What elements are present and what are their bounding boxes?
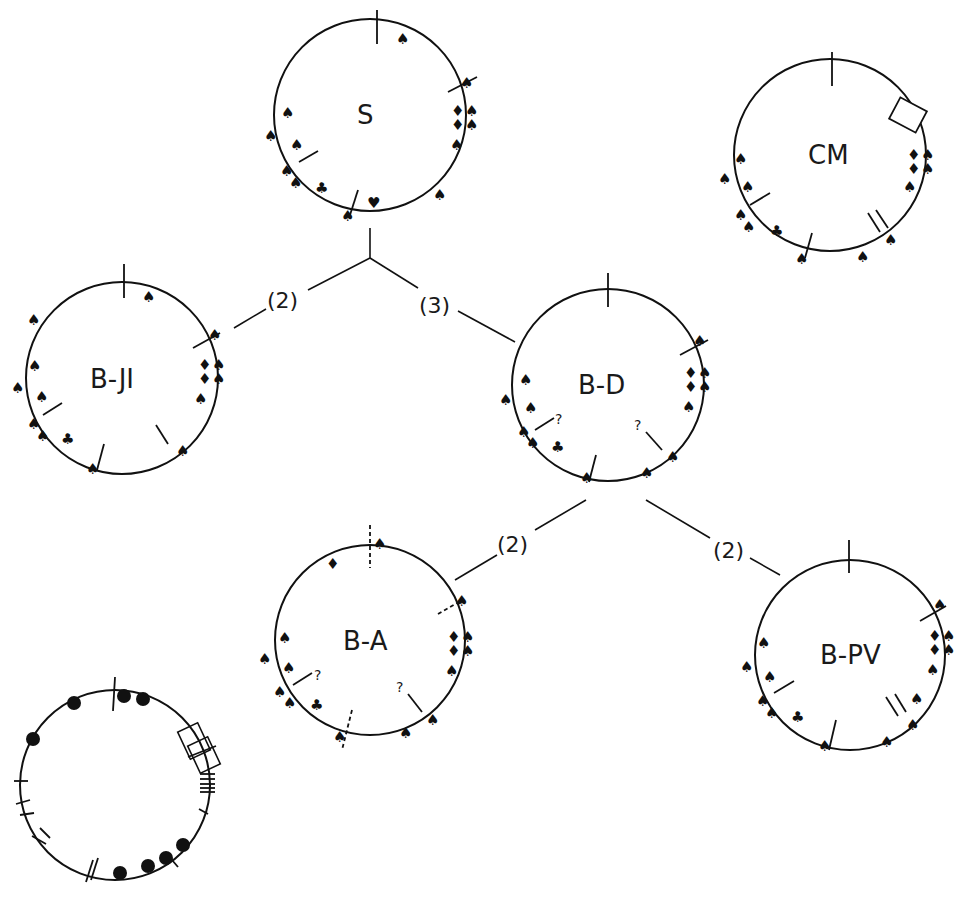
club-marker: ♣ [770,222,783,240]
filled-dot-marker [136,692,150,706]
spade-marker: ♠ [280,162,293,180]
spade-marker: ♠ [856,248,869,266]
spade-marker: ♠ [27,415,40,433]
key-circle [14,677,220,882]
question-mark: ? [396,679,403,695]
spade-marker: ♠ [27,311,40,329]
tick-marker [40,828,50,838]
tick-marker [16,800,30,804]
spade-marker: ♠ [208,326,221,344]
spade-marker: ♠ [818,737,831,755]
spade-marker: ♠ [258,650,271,668]
diamond-marker: ♦ [198,370,211,388]
spade-marker: ♠ [11,379,24,397]
spade-marker: ♠ [903,178,916,196]
spade-marker: ♠ [373,535,386,553]
spade-marker: ♠ [396,30,409,48]
spade-marker: ♠ [718,170,731,188]
map-label: B-JI [90,364,134,394]
map-label: S [357,100,374,130]
spade-marker: ♠ [682,398,695,416]
spade-marker: ♠ [517,423,530,441]
genome-map-b-pv: B-PV ♠ ♦ ♠ ♦ ♠ ♠ ♠ ♠ ♠ ♠ ♣ ♠ ♠ ♠ ♠ ♠ [740,540,955,755]
arrow-marker [535,418,554,430]
club-marker: ♣ [310,696,323,714]
spade-marker: ♠ [519,371,532,389]
origin-tick [113,677,115,711]
filled-dot-marker [113,866,127,880]
spade-marker: ♠ [910,690,923,708]
genome-map-b-ji: B-JI ♠ ♠ ♦ ♠ ♦ ♠ ♠ ♠ ♠ ♣ ♠ ♠ ♠ ♠ ♠ ♠ [11,264,225,478]
genome-map-b-a: ♠ ♦ B-A ♠ ♦ ♠ ♦ ♠ ♠ ? ♠ ♠ ♠ ♣ ? ♠ ♠ ♠ ♠ … [258,525,474,750]
branch-bd-bpv-upper [646,500,710,538]
map-label: CM [808,140,849,170]
question-mark: ? [634,417,641,433]
branch-label-s-bji: (2) [267,288,298,313]
branch-label-bd-ba: (2) [497,532,528,557]
diamond-marker: ♦ [451,116,464,134]
heart-marker: ♥ [367,194,380,212]
club-marker: ♣ [791,708,804,726]
tick-marker [20,813,34,815]
spade-marker: ♠ [640,464,653,482]
diamond-marker: ♦ [326,555,339,573]
spade-marker: ♠ [426,711,439,729]
spade-marker: ♠ [455,592,468,610]
question-mark: ? [314,667,321,683]
club-marker: ♣ [551,438,564,456]
spade-marker: ♠ [740,658,753,676]
arrow-marker [886,697,898,716]
spade-marker: ♠ [880,733,893,751]
spade-marker: ♠ [86,460,99,478]
club-marker: ♣ [315,179,328,197]
spade-marker: ♠ [942,641,955,659]
arrow-marker [868,213,880,232]
diamond-marker: ♦ [684,378,697,396]
branch-bd-ba-upper [535,500,586,530]
spade-marker: ♠ [926,661,939,679]
diagram-canvas: (2) (3) (2) (2) S ♠ ♠ ♦ ♠ ♦ ♠ ♠ ♠ ♥ ♠ ♣ … [0,0,968,898]
arrow-marker [895,694,906,712]
spade-marker: ♠ [278,629,291,647]
branch-s-bd-upper [370,258,418,288]
spade-marker: ♠ [341,207,354,225]
spade-marker: ♠ [499,391,512,409]
spade-marker: ♠ [524,399,537,417]
filled-dot-marker [159,851,173,865]
branch-bd-bpv-lower [750,558,780,575]
diamond-marker: ♦ [907,160,920,178]
arrow-marker [408,694,422,712]
spade-marker: ♠ [734,206,747,224]
spade-marker: ♠ [763,668,776,686]
spade-marker: ♠ [933,596,946,614]
spade-marker: ♠ [176,442,189,460]
branch-s-bd-lower [458,311,515,342]
arrow-marker [293,673,312,685]
filled-dot-marker [141,859,155,873]
spade-marker: ♠ [734,150,747,168]
filled-dot-marker [67,696,81,710]
spade-marker: ♠ [756,692,769,710]
spade-marker: ♠ [212,370,225,388]
arrow-marker [156,425,168,444]
spade-marker: ♠ [35,388,48,406]
branch-bd-ba-lower [455,555,497,580]
filled-dot-marker [117,689,131,703]
spade-marker: ♠ [264,127,277,145]
spade-marker: ♠ [580,469,593,487]
map-label: B-D [578,370,625,400]
branch-label-bd-bpv: (2) [713,538,744,563]
spade-marker: ♠ [282,659,295,677]
spade-marker: ♠ [795,250,808,268]
spade-marker: ♠ [142,288,155,306]
spade-marker: ♠ [28,357,41,375]
arrow-marker [646,432,662,450]
spade-marker: ♠ [465,116,478,134]
map-label: B-PV [820,640,881,670]
spade-marker: ♠ [666,448,679,466]
arrow-marker [876,210,888,228]
arrow-marker [774,681,794,693]
filled-dot-marker [26,732,40,746]
spade-marker: ♠ [194,390,207,408]
spade-marker: ♠ [906,716,919,734]
